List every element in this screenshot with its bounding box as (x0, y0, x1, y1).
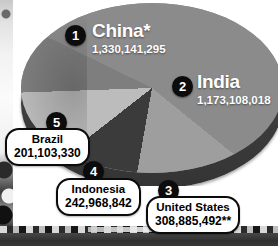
figure-canvas: China* 1,330,141,295 India 1,173,108,018… (0, 0, 278, 246)
slice-value-brazil: 201,103,330 (14, 146, 81, 160)
rank-badge-2: 2 (172, 76, 193, 97)
callout-brazil[interactable]: Brazil 201,103,330 (5, 128, 90, 166)
slice-name-china: China* (92, 21, 166, 41)
callout-indonesia[interactable]: Indonesia 242,968,842 (56, 178, 141, 216)
slice-label-india: India 1,173,108,018 (197, 72, 271, 107)
callout-united-states[interactable]: United States 308,885,492** (146, 196, 240, 234)
rank-badge-1: 1 (65, 25, 86, 46)
slice-value-indonesia: 242,968,842 (65, 196, 132, 210)
slice-name-brazil: Brazil (14, 133, 81, 146)
slice-name-indonesia: Indonesia (65, 183, 132, 196)
slice-value-united-states: 308,885,492** (155, 214, 231, 228)
photo-edge-left (0, 0, 13, 246)
slice-label-china: China* 1,330,141,295 (92, 21, 166, 56)
slice-name-india: India (197, 72, 271, 92)
slice-value-china: 1,330,141,295 (92, 43, 166, 56)
slice-value-india: 1,173,108,018 (197, 94, 271, 107)
slice-name-united-states: United States (155, 201, 231, 214)
